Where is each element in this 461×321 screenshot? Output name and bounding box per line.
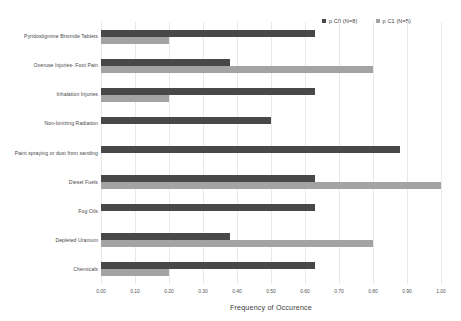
bar-group <box>101 233 441 247</box>
bar[interactable] <box>101 182 441 189</box>
category-label: Fog Oils <box>2 208 98 215</box>
value-tick-label: 0.90 <box>402 288 412 294</box>
category-label: Paint spraying or dust from sanding <box>2 150 98 157</box>
bar[interactable] <box>101 269 169 276</box>
value-tick-label: 1.00 <box>436 288 446 294</box>
value-tick-label: 0.40 <box>232 288 242 294</box>
bar[interactable] <box>101 175 315 182</box>
bar[interactable] <box>101 88 315 95</box>
value-tick-label: 0.50 <box>266 288 276 294</box>
category-label: Inhalation Injuries <box>2 91 98 98</box>
bar[interactable] <box>101 204 315 211</box>
gridline-1.00 <box>441 22 442 284</box>
value-axis-title: Frequency of Occurence <box>101 303 441 312</box>
bar[interactable] <box>101 262 315 269</box>
value-tick-label: 0.80 <box>368 288 378 294</box>
category-label: Chemicals <box>2 266 98 273</box>
bar[interactable] <box>101 146 400 153</box>
category-label: Pyridostigmine Bromide Tablets <box>2 33 98 40</box>
bar[interactable] <box>101 59 230 66</box>
category-label: Depleted Uranium <box>2 237 98 244</box>
value-tick-label: 0.00 <box>96 288 106 294</box>
value-tick-label: 0.60 <box>300 288 310 294</box>
plot-area <box>101 22 441 284</box>
bar[interactable] <box>101 30 315 37</box>
bar-group <box>101 117 441 131</box>
bar[interactable] <box>101 66 373 73</box>
value-axis-ticks: 0.000.100.200.300.400.500.600.700.800.90… <box>101 288 441 298</box>
bar-group <box>101 88 441 102</box>
bar-group <box>101 175 441 189</box>
value-tick-label: 0.70 <box>334 288 344 294</box>
bar-group <box>101 59 441 73</box>
bar[interactable] <box>101 117 271 124</box>
bar[interactable] <box>101 37 169 44</box>
bar[interactable] <box>101 95 169 102</box>
bar-group <box>101 204 441 218</box>
bar-chart: p C0 (N=8) p C1 (N=5) Pyridostigmine Bro… <box>0 0 461 321</box>
category-label: Diesel Fuels <box>2 179 98 186</box>
bar[interactable] <box>101 240 373 247</box>
bar-group <box>101 146 441 160</box>
value-tick-label: 0.10 <box>130 288 140 294</box>
bar[interactable] <box>101 233 230 240</box>
bar-group <box>101 262 441 276</box>
bar-group <box>101 30 441 44</box>
category-axis-labels: Pyridostigmine Bromide TabletsOveruse In… <box>0 22 98 284</box>
value-tick-label: 0.30 <box>198 288 208 294</box>
category-label: Overuse Injuries- Foot Pain <box>2 62 98 69</box>
category-label: Non-Ionizing Radiation <box>2 120 98 127</box>
value-tick-label: 0.20 <box>164 288 174 294</box>
